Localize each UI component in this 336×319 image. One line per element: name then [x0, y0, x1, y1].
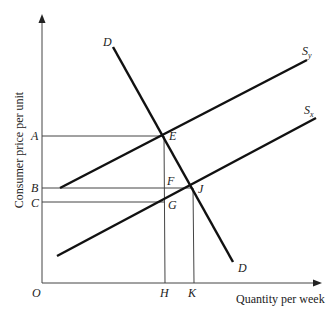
guide-J-K	[193, 188, 194, 283]
supply-curve-y	[60, 60, 307, 188]
supply-x-label: Sx	[304, 103, 314, 119]
demand-label-top: D	[102, 35, 112, 49]
point-label-E: E	[168, 129, 177, 143]
x-axis-arrow-icon	[313, 280, 322, 287]
axes	[39, 14, 323, 287]
y-axis-arrow-icon	[39, 14, 46, 23]
point-label-J: J	[198, 182, 204, 196]
price-label-A: A	[30, 129, 39, 143]
point-label-G: G	[168, 198, 177, 212]
supply-demand-diagram: Consumer price per unit Quantity per wee…	[0, 0, 336, 319]
quantity-label-K: K	[187, 286, 197, 300]
curves	[57, 47, 316, 262]
price-label-C: C	[31, 196, 40, 210]
x-axis-title: Quantity per week	[236, 292, 325, 306]
price-label-B: B	[31, 181, 39, 195]
y-axis-title: Consumer price per unit	[12, 91, 26, 208]
origin-label: O	[32, 286, 41, 300]
demand-label-bottom: D	[237, 261, 247, 275]
demand-curve	[113, 47, 233, 262]
supply-curve-x	[57, 118, 316, 256]
guide-E-H	[164, 136, 165, 283]
point-label-F: F	[166, 174, 175, 188]
quantity-label-H: H	[159, 286, 170, 300]
supply-y-label: Sy	[302, 44, 312, 60]
